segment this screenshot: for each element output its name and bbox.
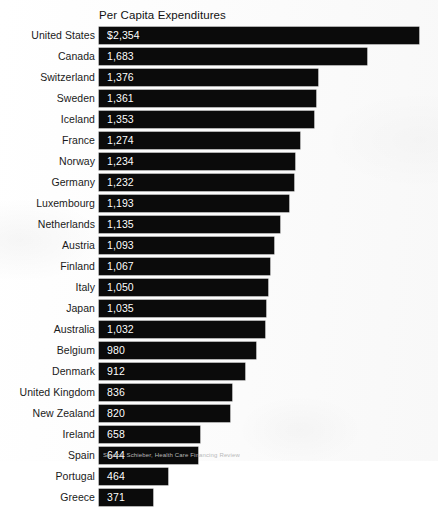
bar-value-label: 836: [107, 386, 125, 398]
bar-value-label: 1,093: [107, 239, 134, 251]
bar-row: Germany1,232: [0, 174, 438, 195]
bar-row: Luxembourg1,193: [0, 195, 438, 216]
category-label: Austria: [62, 239, 95, 251]
bar-row: Canada1,683: [0, 48, 438, 69]
category-label: France: [62, 134, 95, 146]
bar-row: Switzerland1,376: [0, 69, 438, 90]
category-label: Norway: [59, 155, 95, 167]
category-label: Germany: [51, 176, 95, 188]
bar-value-label: 980: [107, 344, 125, 356]
bar-row: Greece371: [0, 489, 438, 510]
bar-row: Austria1,093: [0, 237, 438, 258]
bar-value-label: 1,353: [107, 113, 134, 125]
category-label: Netherlands: [38, 218, 95, 230]
bar-value-label: 1,234: [107, 155, 134, 167]
bar-value-label: 1,135: [107, 218, 134, 230]
source-note: Source: Schieber, Health Care Financing …: [103, 452, 240, 461]
category-label: Luxembourg: [36, 197, 95, 209]
category-label: United States: [31, 29, 95, 41]
bar-value-label: 658: [107, 428, 125, 440]
bar-value-label: 371: [107, 491, 125, 503]
category-label: Australia: [54, 323, 95, 335]
bar-value-label: 1,032: [107, 323, 134, 335]
category-label: New Zealand: [33, 407, 95, 419]
bar-row: Denmark912: [0, 363, 438, 384]
bar-row: Netherlands1,135: [0, 216, 438, 237]
category-label: Switzerland: [40, 71, 95, 83]
bar-value-label: 1,683: [107, 50, 134, 62]
bar-row: Belgium980: [0, 342, 438, 363]
category-label: Denmark: [52, 365, 95, 377]
bar-value-label: 464: [107, 470, 125, 482]
bar-row: Portugal464: [0, 468, 438, 489]
bar: [99, 48, 367, 65]
category-label: Ireland: [63, 428, 95, 440]
bar-row: Sweden1,361: [0, 90, 438, 111]
category-label: Spain: [68, 449, 95, 461]
bar-value-label: 1,232: [107, 176, 134, 188]
bar-value-label: 1,050: [107, 281, 134, 293]
category-label: Italy: [75, 281, 95, 293]
category-label: Sweden: [57, 92, 95, 104]
bar-row: Japan1,035: [0, 300, 438, 321]
bar-value-label: 1,274: [107, 134, 134, 146]
bar-value-label: 1,035: [107, 302, 134, 314]
bar-value-label: 820: [107, 407, 125, 419]
bar-row: Iceland1,353: [0, 111, 438, 132]
bar-value-label: 912: [107, 365, 125, 377]
category-label: Belgium: [57, 344, 95, 356]
chart-title: Per Capita Expenditures: [99, 9, 226, 21]
category-label: Canada: [58, 50, 95, 62]
bar-row: Italy1,050: [0, 279, 438, 300]
category-label: Portugal: [55, 470, 95, 482]
plot-area: United States$2,354Canada1,683Switzerlan…: [0, 27, 438, 510]
bar-row: Finland1,067: [0, 258, 438, 279]
bar-row: United States$2,354: [0, 27, 438, 48]
bar-row: New Zealand820: [0, 405, 438, 426]
category-label: United Kingdom: [20, 386, 95, 398]
category-label: Greece: [60, 491, 95, 503]
bar-row: Norway1,234: [0, 153, 438, 174]
bar-row: France1,274: [0, 132, 438, 153]
bar-value-label: 1,361: [107, 92, 134, 104]
bar-value-label: 1,376: [107, 71, 134, 83]
bar: [99, 27, 419, 44]
bar-value-label: $2,354: [107, 29, 140, 41]
category-label: Iceland: [61, 113, 95, 125]
category-label: Japan: [66, 302, 95, 314]
bar-row: United Kingdom836: [0, 384, 438, 405]
bar-row: Ireland658: [0, 426, 438, 447]
bar-row: Australia1,032: [0, 321, 438, 342]
bar-value-label: 1,067: [107, 260, 134, 272]
bar-value-label: 1,193: [107, 197, 134, 209]
category-label: Finland: [60, 260, 95, 272]
